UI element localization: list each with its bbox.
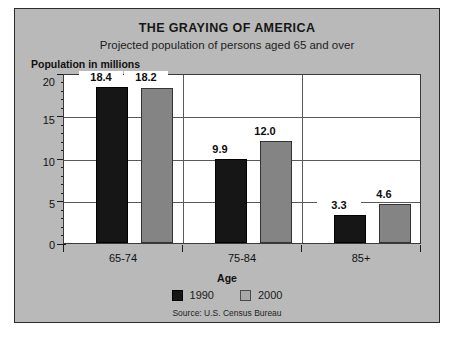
y-tick-label-10: 10: [29, 156, 55, 168]
legend-swatch-icon-1990: [172, 290, 183, 301]
bar-value-1990-65-74: 18.4: [79, 71, 123, 83]
legend-item-2000[interactable]: 2000: [240, 289, 282, 301]
y-tick-label-15: 15: [29, 114, 55, 126]
bar-2000-85plus[interactable]: [379, 204, 411, 243]
x-tick: [63, 245, 64, 252]
group-separator-2: [302, 75, 303, 243]
bar-1990-75-84[interactable]: [215, 159, 247, 243]
y-tick-label-0: 0: [29, 239, 55, 251]
bar-value-2000-75-84: 12.0: [243, 125, 287, 137]
source-note: Source: U.S. Census Bureau: [15, 308, 439, 318]
bar-1990-65-74[interactable]: [96, 87, 128, 243]
x-tick: [301, 245, 302, 252]
x-tick: [182, 245, 183, 252]
legend-label-2000: 2000: [258, 289, 282, 301]
y-tick-major-0: [57, 244, 66, 245]
legend: 1990 2000: [15, 289, 439, 301]
x-category-label-65-74: 65-74: [93, 252, 153, 264]
legend-item-1990[interactable]: 1990: [172, 289, 214, 301]
legend-label-1990: 1990: [190, 289, 214, 301]
x-category-label-85plus: 85+: [331, 252, 391, 264]
bar-value-2000-85plus: 4.6: [362, 188, 406, 200]
bar-2000-75-84[interactable]: [260, 141, 292, 243]
y-tick-label-20: 20: [29, 76, 55, 88]
bar-value-1990-75-84: 9.9: [198, 143, 242, 155]
bar-1990-85plus[interactable]: [334, 215, 366, 243]
y-axis-label: Population in millions: [31, 58, 140, 70]
x-tick: [420, 245, 421, 252]
chart-subtitle: Projected population of persons aged 65 …: [15, 39, 439, 51]
y-tick-label-5: 5: [29, 198, 55, 210]
group-separator-1: [183, 75, 184, 243]
plot-area: [63, 74, 421, 244]
x-axis-label: Age: [15, 272, 439, 284]
legend-swatch-icon-2000: [240, 290, 251, 301]
chart-panel: THE GRAYING OF AMERICA Projected populat…: [14, 8, 440, 323]
bar-value-2000-65-74: 18.2: [124, 71, 168, 83]
bar-value-1990-85plus: 3.3: [317, 199, 361, 211]
x-category-label-75-84: 75-84: [212, 252, 272, 264]
bar-2000-65-74[interactable]: [141, 88, 173, 243]
chart-title: THE GRAYING OF AMERICA: [15, 21, 439, 35]
